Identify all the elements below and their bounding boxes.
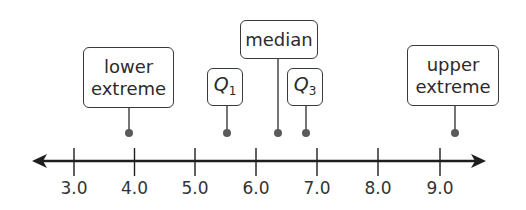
tick-label: 4.0 [121, 178, 148, 198]
tick-label: 5.0 [181, 178, 208, 198]
lower-extreme-point [125, 129, 133, 137]
q3-symbol: Q [294, 73, 309, 95]
q1-callout: Q1 [207, 68, 243, 106]
tick-label: 8.0 [364, 178, 391, 198]
tick-label: 3.0 [60, 178, 87, 198]
tick-label: 9.0 [426, 178, 453, 198]
number-line-diagram: lower extreme Q1 median Q3 upper extreme… [0, 0, 526, 210]
callout-text: extreme [415, 76, 490, 98]
median-callout: median [240, 20, 318, 59]
callout-text: extreme [91, 78, 166, 100]
callout-text: median [245, 29, 312, 51]
tick-label: 6.0 [242, 178, 269, 198]
tick-label: 7.0 [303, 178, 330, 198]
lower-extreme-callout: lower extreme [83, 47, 174, 108]
upper-extreme-point [451, 129, 459, 137]
callout-text: lower [104, 56, 153, 78]
q3-callout: Q3 [287, 68, 323, 106]
callout-text: upper [427, 54, 480, 76]
q1-symbol: Q [214, 73, 229, 95]
q3-subscript: 3 [309, 84, 317, 98]
upper-extreme-callout: upper extreme [407, 45, 499, 106]
data-points [125, 129, 459, 137]
median-point [274, 129, 282, 137]
q1-subscript: 1 [229, 84, 237, 98]
q1-point [223, 129, 231, 137]
q3-point [302, 129, 310, 137]
